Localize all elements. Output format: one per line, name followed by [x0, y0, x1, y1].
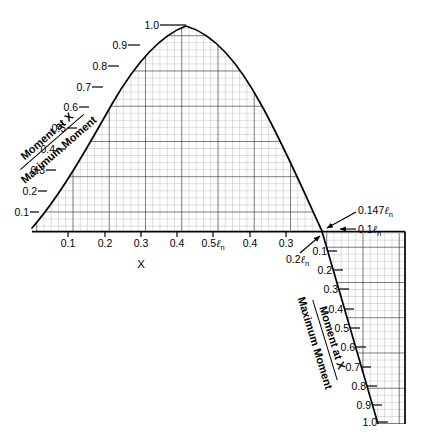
bottom-tick-4: 0.5 — [201, 237, 216, 249]
left-tick-0: 0.1 — [14, 206, 29, 218]
right-tick-7: 0.8 — [351, 380, 366, 392]
chart-canvas: 0.1 0.2 0.3 0.4 0.5 0.6 0.7 0.8 0.9 1.0 … — [0, 0, 421, 434]
right-tick-9: 1.0 — [362, 416, 377, 428]
left-tick-9: 1.0 — [144, 19, 159, 31]
left-tick-7: 0.8 — [92, 60, 107, 72]
bottom-tick-labels: 0.1 0.2 0.3 0.4 0.5ℓn 0.4 0.3 — [61, 237, 294, 252]
callout-02-sub: n — [305, 259, 309, 268]
bottom-tick-2: 0.3 — [134, 237, 149, 249]
callout-0147-leader — [327, 212, 356, 228]
right-tick-8: 0.9 — [356, 399, 371, 411]
callout-0147-sub: n — [389, 210, 393, 219]
callout-01-sub: n — [377, 229, 381, 238]
callout-01-value: 0.1 — [358, 223, 373, 235]
right-tick-2: 0.3 — [323, 283, 338, 295]
x-axis-label: X — [137, 258, 145, 270]
right-tick-1: 0.2 — [317, 264, 332, 276]
right-tick-0: 0.1 — [312, 245, 327, 257]
bottom-tick-3: 0.4 — [170, 237, 185, 249]
moment-coefficient-chart: 0.1 0.2 0.3 0.4 0.5 0.6 0.7 0.8 0.9 1.0 … — [0, 0, 421, 434]
callout-0147-value: 0.147 — [358, 204, 384, 216]
bottom-tick-6: 0.3 — [279, 237, 294, 249]
left-tick-1: 0.2 — [22, 185, 37, 197]
callout-0147-ln: 0.147ℓn — [358, 204, 393, 219]
bottom-tick-4-sub: n — [220, 243, 224, 252]
bottom-tick-0: 0.1 — [61, 237, 76, 249]
left-tick-6: 0.7 — [76, 81, 91, 93]
callout-02-ln: 0.2ℓn — [286, 253, 309, 268]
callout-02-value: 0.2 — [286, 253, 301, 265]
bottom-tick-1: 0.2 — [98, 237, 113, 249]
left-tick-8: 0.9 — [112, 39, 127, 51]
bottom-tick-5: 0.4 — [243, 237, 258, 249]
bottom-tick-4-group: 0.5ℓn — [201, 237, 224, 252]
